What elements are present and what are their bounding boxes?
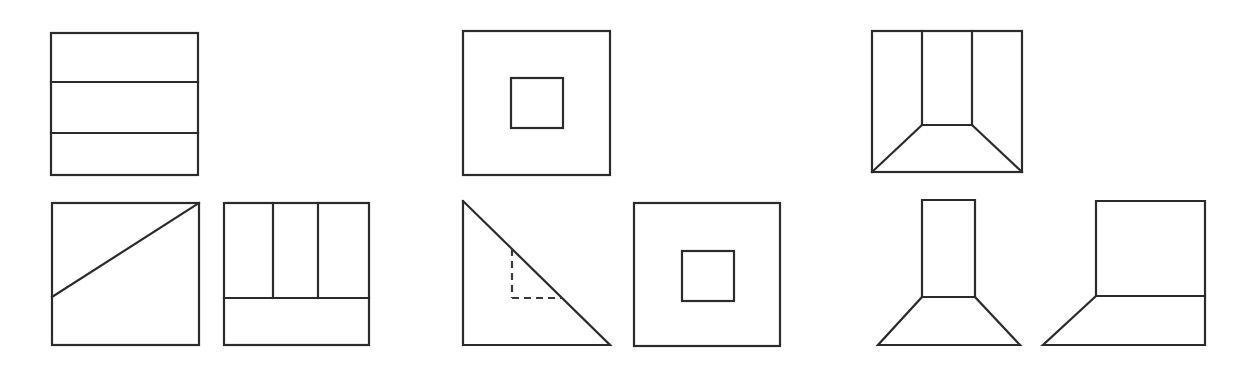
fig-3-hit-area[interactable] — [862, 21, 1032, 182]
fig-4-hit-area[interactable] — [42, 193, 209, 355]
figure-square-with-corridor-perspective[interactable] — [862, 21, 1032, 182]
fig-7-hit-area[interactable] — [624, 193, 790, 356]
fig-8-hit-area[interactable] — [868, 190, 1030, 355]
figure-canvas — [0, 0, 1247, 372]
figure-square-with-trapezoid-base[interactable] — [1033, 191, 1215, 355]
fig-9-hit-area[interactable] — [1033, 191, 1215, 355]
figure-right-triangle-with-dashed-inscribed-square[interactable] — [453, 191, 620, 355]
figure-square-with-two-vertical-slots[interactable] — [214, 193, 379, 355]
fig-2-hit-area[interactable] — [453, 21, 620, 185]
fig-6-hit-area[interactable] — [453, 191, 620, 355]
figure-square-with-three-horizontal-bands[interactable] — [41, 23, 208, 185]
figure-corridor-shape-without-frame[interactable] — [868, 190, 1030, 355]
figure-square-with-centered-inner-square[interactable] — [624, 193, 790, 356]
fig-5-hit-area[interactable] — [214, 193, 379, 355]
figure-sheet — [0, 0, 1247, 372]
fig-1-hit-area[interactable] — [41, 23, 208, 185]
figure-square-with-diagonal[interactable] — [42, 193, 209, 355]
figure-square-with-concentric-inner-square[interactable] — [453, 21, 620, 185]
